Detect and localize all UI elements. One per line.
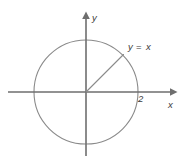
figure-container: y x 2 y = x	[0, 0, 192, 164]
x-axis-label: x	[167, 99, 174, 110]
y-axis-arrow-icon	[82, 12, 90, 20]
line-label-equals: =	[136, 41, 142, 52]
x-axis-arrow-icon	[170, 88, 178, 96]
line-label-y: y	[127, 41, 134, 52]
circle-region-diagram: y x 2 y = x	[0, 0, 192, 164]
line-y-equals-x	[86, 55, 124, 93]
x-tick-label-2: 2	[137, 93, 144, 104]
y-axis-label: y	[91, 12, 98, 23]
line-label-x: x	[145, 41, 152, 52]
